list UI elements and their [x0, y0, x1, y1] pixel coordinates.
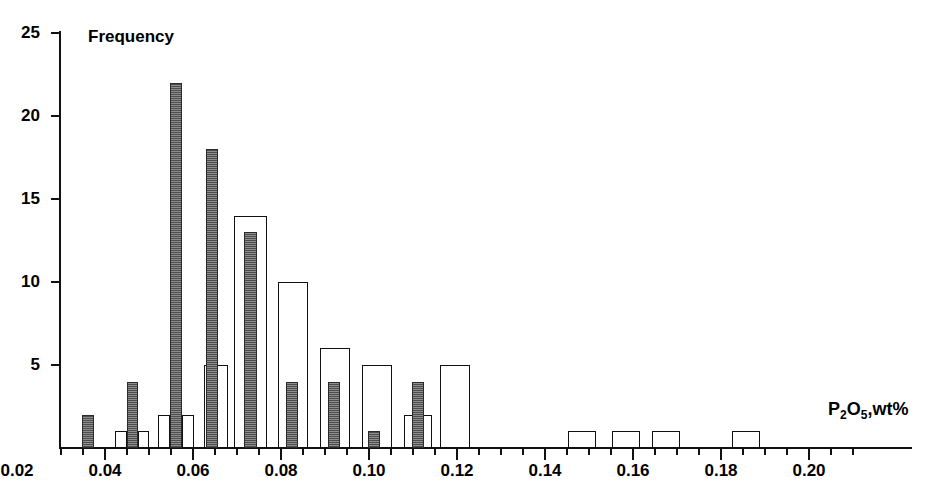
x-tick-0.08 [280, 449, 282, 460]
y-tick-10 [51, 281, 59, 283]
y-tick-25 [51, 32, 59, 34]
x-tick-0.055 [170, 449, 172, 455]
x-tick-0.17 [676, 449, 678, 455]
y-axis-label: Frequency [88, 27, 174, 47]
histogram-bar [286, 382, 298, 448]
histogram-bar [612, 431, 640, 448]
histogram-chart: 510152025 0.020.040.060.080.100.120.140.… [0, 0, 944, 492]
x-tick-0.15 [588, 449, 590, 455]
x-axis-label-sub5: 5 [861, 408, 868, 422]
x-tick-0.18 [720, 449, 722, 460]
x-tick-0.075 [258, 449, 260, 455]
x-tick-label-0.06: 0.06 [158, 462, 228, 479]
x-tick-0.145 [566, 449, 568, 455]
histogram-bar [328, 382, 340, 448]
x-tick-0.115 [434, 449, 436, 455]
histogram-bar [138, 431, 149, 448]
histogram-bar [158, 415, 170, 448]
x-tick-0.09 [324, 449, 326, 455]
histogram-bar [732, 431, 760, 448]
y-tick-20 [51, 115, 59, 117]
histogram-bar [368, 431, 380, 448]
histogram-bar [412, 382, 424, 448]
x-axis-label-o: O [847, 399, 861, 419]
x-tick-0.205 [830, 449, 832, 455]
y-axis-line [59, 31, 61, 449]
x-tick-label-0.16: 0.16 [598, 462, 668, 479]
x-tick-0.14 [544, 449, 546, 460]
x-tick-label-0.12: 0.12 [422, 462, 492, 479]
y-tick-5 [51, 364, 59, 366]
y-tick-label-10: 10 [0, 273, 40, 290]
x-tick-0.06 [192, 449, 194, 460]
x-tick-label-0.10: 0.10 [334, 462, 404, 479]
histogram-bar [82, 415, 94, 448]
x-axis-label-p: P [828, 399, 840, 419]
x-tick-0.105 [390, 449, 392, 455]
x-tick-0.1 [368, 449, 370, 460]
x-tick-0.16 [632, 449, 634, 460]
x-tick-0.03 [60, 449, 62, 455]
x-tick-0.05 [148, 449, 150, 455]
histogram-bar [440, 365, 470, 448]
x-tick-0.185 [742, 449, 744, 455]
x-tick-0.13 [500, 449, 502, 455]
x-tick-label-0.18: 0.18 [686, 462, 756, 479]
y-tick-15 [51, 198, 59, 200]
histogram-bar [170, 83, 182, 448]
y-tick-label-5: 5 [0, 356, 40, 373]
x-tick-0.135 [522, 449, 524, 455]
x-tick-0.12 [456, 449, 458, 460]
x-tick-label-0.04: 0.04 [70, 462, 140, 479]
x-axis-label-unit: ,wt% [867, 399, 908, 419]
histogram-bar [115, 431, 127, 448]
x-tick-0.155 [610, 449, 612, 455]
x-tick-0.11 [412, 449, 414, 455]
y-tick-label-15: 15 [0, 190, 40, 207]
y-tick-label-20: 20 [0, 107, 40, 124]
x-axis-label-sub2: 2 [840, 408, 847, 422]
histogram-bar [182, 415, 194, 448]
y-tick-label-25: 25 [0, 24, 40, 41]
x-tick-label-0.02: 0.02 [0, 462, 52, 479]
x-tick-0.04 [104, 449, 106, 460]
x-tick-0.165 [654, 449, 656, 455]
x-tick-0.21 [852, 449, 854, 455]
x-tick-label-0.08: 0.08 [246, 462, 316, 479]
x-tick-0.085 [302, 449, 304, 455]
x-tick-0.095 [346, 449, 348, 455]
x-tick-0.065 [214, 449, 216, 455]
x-tick-0.2 [808, 449, 810, 460]
x-tick-0.175 [698, 449, 700, 455]
x-tick-0.19 [764, 449, 766, 455]
x-tick-0.035 [82, 449, 84, 455]
histogram-bar [244, 232, 257, 448]
x-tick-0.125 [478, 449, 480, 455]
x-axis-label: P2O5,wt% [828, 399, 908, 420]
histogram-bar [127, 382, 138, 448]
x-tick-0.195 [786, 449, 788, 455]
x-tick-label-0.20: 0.20 [774, 462, 844, 479]
x-tick-0.045 [126, 449, 128, 455]
histogram-bar [206, 149, 218, 448]
histogram-bar [568, 431, 596, 448]
x-tick-0.07 [236, 449, 238, 455]
x-tick-label-0.14: 0.14 [510, 462, 580, 479]
histogram-bar [652, 431, 680, 448]
